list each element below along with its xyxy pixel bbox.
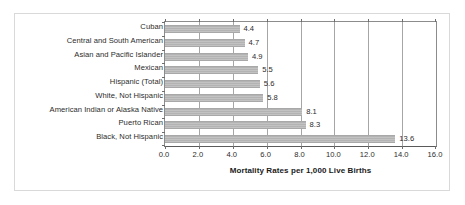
bar [165,80,260,88]
bar-value-label: 4.9 [252,51,263,63]
x-tick-label: 12.0 [360,150,375,159]
x-tick-label: 0.0 [159,150,170,159]
bar [165,25,240,33]
bar-value-label: 5.8 [267,92,278,104]
bar-row: 4.9 [165,50,436,64]
category-label: White, Not Hispanic [15,89,163,103]
bar-row: 4.7 [165,36,436,50]
category-label: Black, Not Hispanic [15,130,163,144]
bar [165,108,302,116]
bar-value-label: 8.1 [306,106,317,118]
bar-row: 8.1 [165,105,436,119]
category-label: American Indian or Alaska Native [15,103,163,117]
x-axis-tick-labels: 0.02.04.06.08.010.012.014.016.0 [164,150,437,162]
x-tick-mark [199,146,200,149]
bar-value-label: 13.6 [399,133,414,145]
x-tick-label: 16.0 [428,150,443,159]
x-tick-mark [165,146,166,149]
x-tick-label: 2.0 [193,150,204,159]
x-tick-mark [301,146,302,149]
category-label: Mexican [15,61,163,75]
bar-row: 5.8 [165,91,436,105]
category-label: Asian and Pacific Islander [15,48,163,62]
bar-value-label: 8.3 [310,119,321,131]
bar-value-label: 5.5 [262,64,273,76]
bar-value-label: 4.7 [249,37,260,49]
x-tick-label: 14.0 [394,150,409,159]
bar [165,53,248,61]
bar-row: 5.6 [165,77,436,91]
bar-row: 8.3 [165,118,436,132]
x-tick-label: 4.0 [226,150,237,159]
bar [165,135,395,143]
x-tick-mark [368,146,369,149]
bar-value-label: 5.6 [264,78,275,90]
x-tick-mark [267,146,268,149]
x-tick-label: 10.0 [326,150,341,159]
x-tick-label: 6.0 [260,150,271,159]
bar-series: 4.44.74.95.55.65.88.18.313.6 [165,22,436,146]
category-axis-labels: CubanCentral and South AmericanAsian and… [15,20,163,146]
bar [165,39,245,47]
bar-row: 13.6 [165,132,436,146]
x-tick-label: 8.0 [294,150,305,159]
x-tick-mark [334,146,335,149]
bar-row: 5.5 [165,63,436,77]
category-label: Hispanic (Total) [15,75,163,89]
bar-row: 4.4 [165,22,436,36]
x-tick-mark [402,146,403,149]
x-tick-mark [233,146,234,149]
bar [165,94,263,102]
bar-value-label: 4.4 [244,23,255,35]
chart-figure: CubanCentral and South AmericanAsian and… [14,13,450,191]
category-label: Central and South American [15,34,163,48]
category-label: Puerto Rican [15,116,163,130]
bar [165,121,306,129]
plot-area: 4.44.74.95.55.65.88.18.313.6 [164,21,437,147]
bar [165,66,258,74]
x-tick-mark [435,146,436,149]
category-label: Cuban [15,20,163,34]
x-axis-title: Mortality Rates per 1,000 Live Births [164,166,437,175]
